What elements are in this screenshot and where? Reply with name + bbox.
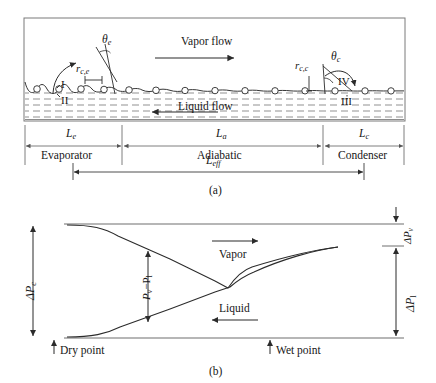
theta-c-sub: c [337, 55, 341, 64]
figure-container: Vapor flow Liquid flow θe rc,e θc rc,c I… [0, 0, 436, 383]
liquid-curve-label: Liquid [219, 303, 250, 315]
roman-marker-iii: III [341, 96, 352, 107]
le-sub: e [72, 132, 76, 141]
effective-length-label: Leff [206, 155, 221, 168]
delta-pl-label: ΔPl [404, 295, 418, 312]
caption-panel-a: (a) [209, 185, 222, 197]
pvpl-base1: P [140, 293, 152, 300]
liquid-flow-label: Liquid flow [178, 101, 233, 113]
section-title-condenser: Condenser [338, 150, 387, 162]
delta-pc-label: ΔPc [24, 282, 38, 300]
dpl-sub: l [408, 295, 418, 297]
vapor-flow-label: Vapor flow [181, 36, 232, 48]
vapor-pressure-curve [67, 225, 338, 288]
delta-pv-label: ΔPv [403, 228, 414, 244]
section-title-evaporator: Evaporator [41, 150, 92, 162]
r-ce-sub: c,e [80, 67, 89, 76]
roman-marker-i: I [61, 79, 65, 90]
length-evaporator-label: Le [66, 128, 76, 141]
pv-minus-pl-label: Pv−Pl [141, 275, 154, 300]
pvpl-sub1: v [145, 290, 154, 294]
la-sub: a [222, 132, 226, 141]
contact-angle-condenser-label: θc [331, 51, 340, 64]
length-condenser-label: Lc [359, 128, 369, 141]
length-adiabatic-label: La [216, 128, 227, 141]
caption-panel-b: (b) [209, 366, 222, 378]
roman-marker-iv: IV [338, 76, 350, 87]
dry-point-label: Dry point [60, 345, 104, 357]
delta-pv-dimension [382, 207, 404, 246]
pvpl-sub2: l [145, 275, 154, 277]
dpl-base: ΔP [403, 298, 417, 312]
radius-condenser-label: rc,c [295, 60, 308, 73]
liquid-pressure-curve [67, 247, 338, 337]
r-cc-sub: c,c [299, 64, 308, 73]
roman-marker-ii: II [61, 95, 68, 106]
leff-sub: eff [212, 159, 220, 168]
pvpl-base2: −P [140, 277, 152, 289]
dpc-sub: c [28, 282, 38, 286]
lc-sub: c [365, 132, 369, 141]
dpv-base: ΔP [402, 231, 413, 244]
dpv-sub: v [406, 228, 415, 231]
theta-e-sub: e [108, 38, 112, 47]
dpc-base: ΔP [23, 286, 37, 300]
radius-evaporator-label: rc,e [76, 63, 89, 76]
contact-angle-evaporator-label: θe [102, 34, 111, 47]
wet-point-label: Wet point [276, 345, 321, 357]
vapor-curve-label: Vapor [219, 249, 246, 261]
